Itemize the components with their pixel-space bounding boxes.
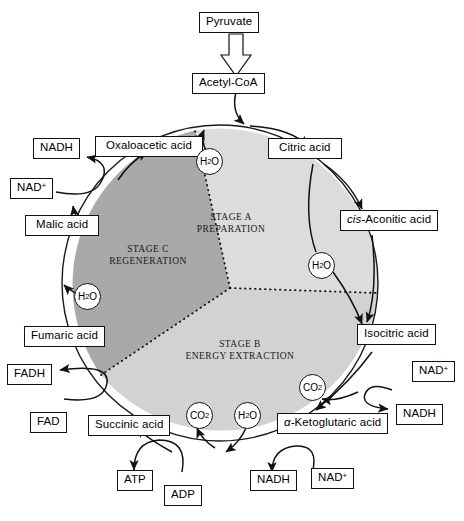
node-fumaric-acid[interactable]: Fumaric acid <box>24 326 105 347</box>
node-fadh[interactable]: FADH <box>7 364 52 385</box>
stage-c-label: STAGE C REGENERATION <box>88 243 208 267</box>
stage-b-line2: ENERGY EXTRACTION <box>160 350 320 362</box>
arrow-nadplus-right-to-nadh-right <box>364 386 392 409</box>
node-nadh-bottom[interactable]: NADH <box>250 470 297 491</box>
node-oxaloacetic-acid[interactable]: Oxaloacetic acid <box>95 136 203 157</box>
arrow-ketoglutaric-to-succinic-path <box>286 440 290 452</box>
node-citric-acid[interactable]: Citric acid <box>268 138 342 159</box>
arrow-ring-to-co2-bottom <box>197 428 215 448</box>
ketoglutaric-rest: Ketoglutaric acid <box>295 416 382 428</box>
co2-bottom-label: CO <box>190 410 205 421</box>
water-top-o: O <box>211 156 219 167</box>
stage-b-line1: STAGE B <box>160 338 320 350</box>
stage-b-label: STAGE B ENERGY EXTRACTION <box>160 338 320 362</box>
stage-a-label: STAGE A PREPARATION <box>171 211 291 235</box>
node-adp[interactable]: ADP <box>164 485 202 506</box>
water-left-h: H <box>78 291 85 302</box>
node-cis-aconitic-acid[interactable]: cis-Aconitic acid <box>340 210 438 231</box>
water-right-o: O <box>323 260 331 271</box>
arrow-pyruvate-to-acetylcoa <box>221 34 251 76</box>
molecule-water-bottom[interactable]: H2O <box>234 402 261 429</box>
stage-a-line1: STAGE A <box>171 211 291 223</box>
cis-aconitic-rest: Aconitic acid <box>365 213 431 225</box>
molecule-co2-bottom[interactable]: CO2 <box>186 402 213 429</box>
node-acetyl-coa[interactable]: Acetyl-CoA <box>192 73 265 94</box>
node-nadh-upper-left[interactable]: NADH <box>33 138 80 159</box>
water-top-h: H <box>200 156 207 167</box>
node-nadh-right[interactable]: NADH <box>396 404 443 425</box>
co2-right-sub: 2 <box>318 383 322 392</box>
nad-right-label: NAD <box>419 364 444 376</box>
cis-prefix: cis- <box>347 213 365 225</box>
co2-bottom-sub: 2 <box>205 411 209 420</box>
stage-c-line2: REGENERATION <box>88 255 208 267</box>
arrow-acetylcoa-to-cycle <box>235 92 244 124</box>
node-nadplus-upper-left[interactable]: NAD+ <box>10 178 53 199</box>
nad-bottom-charge: + <box>343 471 348 480</box>
stage-a-line2: PREPARATION <box>171 223 291 235</box>
nad-upper-left-charge: + <box>42 181 47 190</box>
arrow-nadplus-to-nadh <box>56 157 104 194</box>
nad-right-charge: + <box>444 364 449 373</box>
nad-upper-left-label: NAD <box>17 181 42 193</box>
node-succinic-acid[interactable]: Succinic acid <box>88 415 170 436</box>
krebs-cycle-diagram: STAGE A PREPARATION STAGE B ENERGY EXTRA… <box>0 0 464 521</box>
node-atp[interactable]: ATP <box>117 470 153 491</box>
node-fad[interactable]: FAD <box>30 412 67 433</box>
nad-bottom-label: NAD <box>318 471 343 483</box>
molecule-water-left[interactable]: H2O <box>74 283 101 310</box>
node-nadplus-bottom[interactable]: NAD+ <box>311 468 354 489</box>
node-pyruvate[interactable]: Pyruvate <box>199 12 259 33</box>
co2-right-label: CO <box>303 382 318 393</box>
water-right-h: H <box>312 260 319 271</box>
water-bottom-o: O <box>249 410 257 421</box>
molecule-water-top[interactable]: H2O <box>196 148 223 175</box>
node-isocitric-acid[interactable]: Isocitric acid <box>357 324 436 345</box>
molecule-water-right[interactable]: H2O <box>308 252 335 279</box>
alpha-prefix: α- <box>284 416 295 428</box>
node-nadplus-right[interactable]: NAD+ <box>412 361 455 382</box>
water-bottom-h: H <box>238 410 245 421</box>
water-left-o: O <box>89 291 97 302</box>
stage-c-line1: STAGE C <box>88 243 208 255</box>
molecule-co2-right[interactable]: CO2 <box>299 374 326 401</box>
node-alpha-ketoglutaric-acid[interactable]: α-Ketoglutaric acid <box>277 413 388 434</box>
node-malic-acid[interactable]: Malic acid <box>25 215 99 236</box>
